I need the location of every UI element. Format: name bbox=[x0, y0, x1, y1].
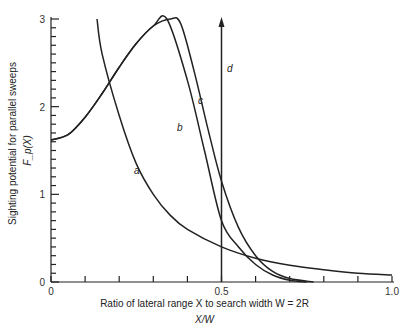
x-tick-label: 0 bbox=[48, 286, 54, 297]
x-axis-sublabel: X/W bbox=[0, 314, 409, 325]
label-c: c bbox=[198, 95, 203, 106]
arrow-icon bbox=[219, 17, 225, 27]
x-axis-label: Ratio of lateral range X to search width… bbox=[0, 298, 409, 309]
label-d: d bbox=[227, 63, 233, 74]
x-tick-label: 1.0 bbox=[385, 286, 399, 297]
y-axis-label: Sighting potential for parallel sweeps bbox=[7, 54, 18, 234]
curves bbox=[51, 16, 392, 282]
chart-plot: 00.51.00123 abcd bbox=[0, 0, 409, 334]
label-b: b bbox=[177, 122, 183, 133]
y-tick-label: 2 bbox=[39, 102, 45, 113]
curve-b bbox=[51, 16, 307, 282]
tick-labels: 00.51.00123 bbox=[39, 14, 399, 297]
y-tick-label: 1 bbox=[39, 189, 45, 200]
y-tick-label: 0 bbox=[39, 277, 45, 288]
curve-c bbox=[51, 18, 314, 282]
y-tick-label: 3 bbox=[39, 14, 45, 25]
y-axis-sublabel: F_p(X) bbox=[22, 135, 33, 166]
curve-a bbox=[97, 19, 392, 275]
label-a: a bbox=[134, 165, 140, 176]
x-tick-label: 0.5 bbox=[215, 286, 229, 297]
curve-labels: abcd bbox=[134, 63, 233, 176]
